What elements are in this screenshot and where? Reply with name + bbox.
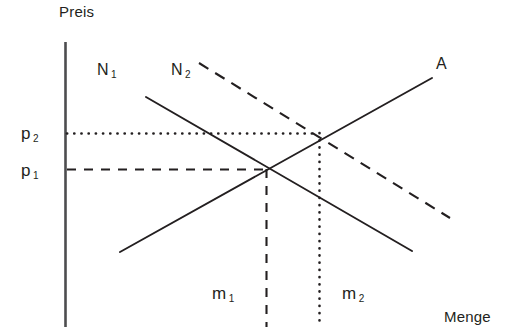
supply-demand-diagram: Preis Menge p2 p1 m1 m2 N1 N2 A (0, 0, 519, 327)
price-label-p2: p2 (21, 125, 39, 142)
curve-label-n1-subscript: 1 (109, 69, 117, 80)
y-axis-title: Preis (59, 4, 94, 19)
quantity-label-m1-subscript: 1 (226, 293, 234, 304)
diagram-canvas (0, 0, 519, 327)
x-axis-title: Menge (444, 309, 491, 324)
demand-curve-n1 (146, 97, 412, 251)
curve-label-a-base: A (436, 55, 447, 72)
supply-curve-a (120, 78, 432, 252)
curve-label-a: A (436, 56, 447, 72)
curve-label-n2-base: N (171, 61, 183, 78)
price-label-p1: p1 (21, 162, 39, 179)
quantity-label-m2-base: m (342, 284, 356, 303)
curve-label-n1: N1 (97, 62, 117, 78)
quantity-label-m1-base: m (212, 284, 226, 303)
quantity-label-m2-subscript: 2 (356, 293, 364, 304)
demand-curve-n2 (199, 63, 450, 218)
curve-label-n1-base: N (97, 61, 109, 78)
curve-label-n2-subscript: 2 (183, 69, 191, 80)
quantity-label-m1: m1 (212, 285, 234, 302)
price-label-p2-subscript: 2 (30, 133, 38, 144)
curve-label-n2: N2 (171, 62, 191, 78)
price-label-p1-subscript: 1 (30, 170, 38, 181)
quantity-label-m2: m2 (342, 285, 364, 302)
